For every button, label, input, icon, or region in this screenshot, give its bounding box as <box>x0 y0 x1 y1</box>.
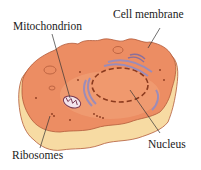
label-mitochondrion: Mitochondrion <box>13 21 82 33</box>
label-cell-membrane: Cell membrane <box>113 9 184 21</box>
label-ribosomes: Ribosomes <box>12 150 63 162</box>
label-nucleus: Nucleus <box>148 139 186 151</box>
nucleus <box>92 68 148 102</box>
